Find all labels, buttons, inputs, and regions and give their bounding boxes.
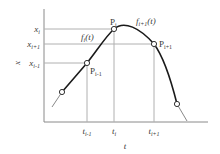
x-axis-label: t	[124, 141, 127, 151]
point-p-i-minus-1	[84, 60, 89, 65]
point-start	[59, 89, 64, 94]
curve-f-i-plus-1	[114, 25, 177, 104]
x-tick-t-i-plus-1: ti+1	[148, 126, 159, 137]
label-p-i: Pi	[110, 17, 117, 28]
y-tick-x-i: xi	[33, 24, 40, 35]
point-p-i-plus-1	[151, 41, 156, 46]
label-p-i-plus-1: Pi+1	[159, 39, 172, 50]
interpolation-diagram: xi xi+1 xi-1 x ti-1 ti ti+1 t Pi-1 Pi Pi…	[0, 0, 220, 154]
label-p-i-minus-1: Pi-1	[90, 66, 102, 77]
label-f-i: fi(t)	[81, 32, 94, 43]
x-tick-t-i-minus-1: ti-1	[82, 126, 91, 137]
y-tick-x-i-minus-1: xi-1	[28, 58, 40, 69]
y-tick-x-i-plus-1: xi+1	[26, 39, 40, 50]
point-end	[174, 101, 179, 106]
label-f-i-plus-1: fi+1(t)	[136, 16, 156, 27]
y-axis-label: x	[12, 61, 22, 66]
x-tick-t-i: ti	[112, 126, 117, 137]
